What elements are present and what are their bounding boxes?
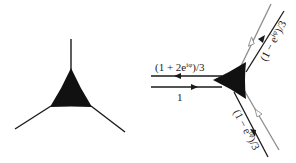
left-lower-right-leg (91, 106, 125, 132)
diagram-canvas: (1 + 2eiφ)/3 1 (1 − eiφ)/3 (1 − eiφ)/3 (0, 0, 296, 163)
left-vertex-triangle (50, 68, 92, 107)
diagram-svg: (1 + 2eiφ)/3 1 (1 − eiφ)/3 (1 − eiφ)/3 (0, 0, 296, 163)
arrow-up-left-hollow-icon (255, 109, 262, 117)
left-lower-left-leg (15, 106, 51, 129)
bottom-left-line-label: 1 (177, 91, 183, 103)
right-vertex-triangle (213, 62, 246, 99)
top-left-line-label: (1 + 2eiφ)/3 (155, 61, 205, 74)
arrow-right-filled-icon (191, 84, 198, 90)
arrow-left-filled-icon (174, 73, 181, 79)
right-vertex-diagram: (1 + 2eiφ)/3 1 (1 − eiφ)/3 (1 − eiφ)/3 (151, 4, 290, 157)
arrow-down-left-hollow-icon (248, 37, 255, 46)
arrow-up-right-filled-icon (258, 35, 265, 43)
left-vertex-diagram (15, 39, 125, 132)
